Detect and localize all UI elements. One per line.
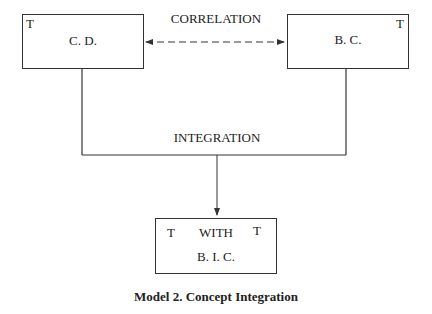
- node-line2: B. I. C.: [156, 249, 276, 265]
- node-line1: WITH: [156, 225, 276, 241]
- marker-t: T: [26, 16, 34, 32]
- node-label: C. D.: [23, 33, 143, 49]
- marker-t: T: [396, 16, 404, 32]
- node-cd: T C. D.: [22, 14, 144, 69]
- node-label: B. C.: [288, 32, 408, 48]
- integration-label: INTEGRATION: [150, 130, 284, 146]
- correlation-label: CORRELATION: [146, 11, 286, 27]
- node-bc: T B. C.: [287, 14, 409, 69]
- node-bic: T T WITH B. I. C.: [155, 218, 277, 274]
- figure-caption: Model 2. Concept Integration: [0, 289, 432, 305]
